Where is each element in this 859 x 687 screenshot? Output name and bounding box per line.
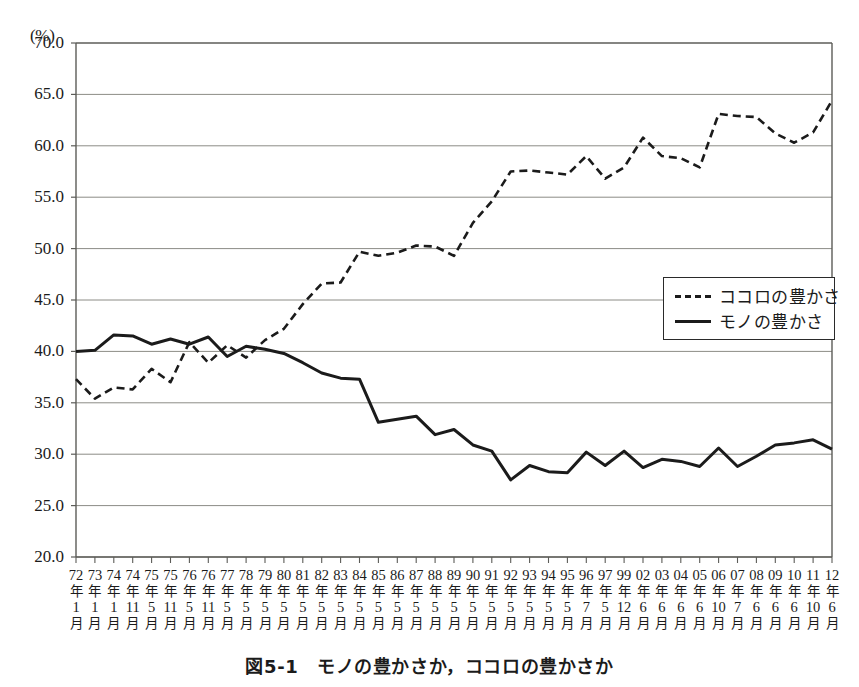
y-tick-label: 60.0: [2, 137, 64, 154]
y-tick-label: 40.0: [2, 342, 64, 359]
x-tick-marks: [76, 557, 832, 563]
figure-5-1: (%) 70.065.060.055.050.045.040.035.030.0…: [0, 0, 859, 687]
x-tick-year-suffix: 年: [821, 583, 843, 599]
x-tick-month: 6: [821, 599, 843, 615]
y-tick-label: 20.0: [2, 548, 64, 565]
chart-legend: ココロの豊かさモノの豊かさ: [663, 277, 835, 340]
series-line-2: [76, 335, 832, 480]
legend-entry: モノの豊かさ: [673, 308, 824, 333]
legend-key-dashed-icon: [673, 289, 713, 303]
y-tick-label: 50.0: [2, 240, 64, 257]
legend-entry: ココロの豊かさ: [673, 283, 824, 308]
series-line-1: [76, 101, 832, 399]
y-tick-label: 25.0: [2, 497, 64, 514]
y-tick-label: 55.0: [2, 188, 64, 205]
x-tick-year: 12: [821, 567, 843, 583]
legend-label: ココロの豊かさ: [719, 283, 841, 308]
figure-caption: 図5-1 モノの豊かさか，ココロの豊かさか: [0, 652, 859, 678]
y-tick-label: 35.0: [2, 394, 64, 411]
x-tick-label: 12年6月: [821, 567, 843, 631]
y-tick-label: 45.0: [2, 291, 64, 308]
legend-label: モノの豊かさ: [719, 308, 823, 333]
legend-key-solid-icon: [673, 314, 713, 328]
y-tick-label: 70.0: [2, 34, 64, 51]
x-tick-month-suffix: 月: [821, 615, 843, 631]
y-tick-label: 30.0: [2, 445, 64, 462]
y-tick-label: 65.0: [2, 85, 64, 102]
y-tick-marks: [71, 43, 76, 557]
